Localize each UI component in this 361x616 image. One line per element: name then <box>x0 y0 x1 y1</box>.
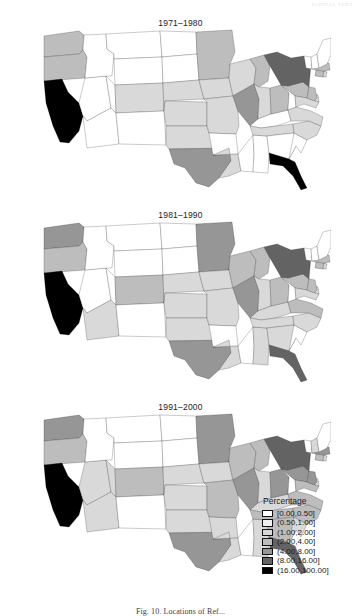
state-mo <box>204 480 239 518</box>
state-nd <box>160 223 197 249</box>
state-ny <box>264 436 311 471</box>
panel-title-1: 1971–1980 <box>0 18 361 28</box>
state-mt <box>106 31 162 59</box>
legend-swatch <box>262 557 273 565</box>
figure-page: PARTIAL TEXT 1971–1980 1981–1990 1991–20… <box>0 0 361 616</box>
legend-label: (2.00,4.00] <box>277 538 315 546</box>
legend-label: (1.00,2.00] <box>277 529 315 537</box>
state-ia <box>199 270 233 291</box>
legend-swatch <box>262 510 273 518</box>
map-panel-1981-1990: 1981–1990 <box>0 210 361 385</box>
state-nm <box>116 495 166 529</box>
state-ny <box>264 244 311 279</box>
figure-caption: Fig. 10. Locations of Ref... <box>0 607 361 616</box>
state-mn <box>196 30 235 80</box>
state-wa <box>44 415 84 441</box>
legend-title: Percentage <box>263 497 329 506</box>
legend-row: (0.50,1.00] <box>262 519 329 527</box>
legend-entries: [0.00,0.50](0.50,1.00](1.00,2.00](2.00,4… <box>262 510 329 575</box>
state-mo <box>204 288 239 326</box>
map-legend: Percentage [0.00,0.50](0.50,1.00](1.00,2… <box>262 497 329 576</box>
state-ca <box>44 271 83 335</box>
state-nd <box>160 415 197 441</box>
choropleth-map-2 <box>31 220 331 385</box>
state-ks <box>164 101 207 126</box>
state-mt <box>106 415 162 443</box>
legend-label: (8.00,16.00] <box>277 557 320 565</box>
state-co <box>115 275 164 305</box>
state-ms <box>238 135 254 172</box>
state-wa <box>44 223 84 249</box>
state-sd <box>162 246 199 275</box>
running-head: PARTIAL TEXT <box>312 2 353 7</box>
choropleth-map-1 <box>31 28 331 193</box>
state-wa <box>44 31 84 57</box>
legend-label: (16.00,100.00] <box>277 567 329 575</box>
legend-row: (4.00,8.00] <box>262 548 329 556</box>
state-co <box>115 83 164 113</box>
state-nm <box>116 111 166 145</box>
state-ct <box>315 262 324 269</box>
legend-swatch <box>262 567 273 575</box>
legend-row: (16.00,100.00] <box>262 567 329 575</box>
state-wy <box>114 249 163 277</box>
legend-swatch <box>262 538 273 546</box>
state-ms <box>238 519 254 556</box>
legend-label: (0.50,1.00] <box>277 519 315 527</box>
state-al <box>253 135 269 173</box>
state-ms <box>238 327 254 364</box>
state-ks <box>164 293 207 318</box>
legend-swatch <box>262 529 273 537</box>
state-nm <box>116 303 166 337</box>
map-canvas-2 <box>0 220 361 385</box>
map-canvas-1 <box>0 28 361 193</box>
state-ny <box>264 52 311 87</box>
panel-title-3: 1991–2000 <box>0 402 361 412</box>
state-ia <box>199 78 233 99</box>
legend-label: [0.00,0.50] <box>277 510 315 518</box>
state-nd <box>160 31 197 57</box>
legend-row: (1.00,2.00] <box>262 529 329 537</box>
legend-row: (2.00,4.00] <box>262 538 329 546</box>
legend-row: [0.00,0.50] <box>262 510 329 518</box>
state-sd <box>162 54 199 83</box>
state-ct <box>315 70 324 77</box>
state-wy <box>114 57 163 85</box>
state-ia <box>199 462 233 483</box>
state-ca <box>44 463 83 527</box>
state-co <box>115 467 164 497</box>
legend-label: (4.00,8.00] <box>277 548 315 556</box>
map-panel-1971-1980: 1971–1980 <box>0 18 361 193</box>
state-ct <box>315 454 324 461</box>
state-mn <box>196 222 235 272</box>
state-al <box>253 327 269 365</box>
legend-swatch <box>262 519 273 527</box>
panel-title-2: 1981–1990 <box>0 210 361 220</box>
state-ca <box>44 79 83 143</box>
state-wy <box>114 441 163 469</box>
legend-row: (8.00,16.00] <box>262 557 329 565</box>
state-mt <box>106 223 162 251</box>
state-sd <box>162 438 199 467</box>
state-mn <box>196 414 235 464</box>
state-mo <box>204 96 239 134</box>
legend-swatch <box>262 548 273 556</box>
state-ks <box>164 485 207 510</box>
